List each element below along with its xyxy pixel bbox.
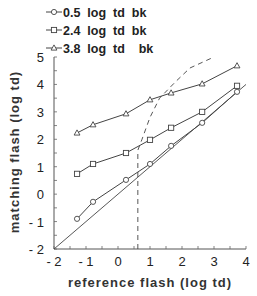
y-tick-label: 1 — [37, 160, 44, 175]
x-tick-label: 4 — [242, 254, 249, 269]
circle-marker-icon — [147, 161, 152, 166]
circle-marker-icon — [169, 143, 174, 148]
square-marker-icon — [200, 109, 205, 114]
circle-marker-icon — [200, 120, 205, 125]
series-line — [77, 66, 237, 133]
triangle-marker-icon — [123, 111, 129, 116]
axes: - 2- 101234- 2- 1012345 — [29, 50, 250, 269]
series-line — [77, 92, 237, 219]
square-marker-icon — [51, 27, 56, 32]
legend-label: 2.4 log td bk — [63, 24, 146, 38]
legend-label: 3.8 log td bk — [63, 42, 153, 56]
square-marker-icon — [123, 150, 128, 155]
square-marker-icon — [169, 125, 174, 130]
x-tick-label: - 1 — [78, 254, 93, 269]
y-tick-label: 3 — [37, 105, 44, 120]
chart: 0.5 log td bk2.4 log td bk3.8 log td bk … — [0, 0, 257, 296]
square-marker-icon — [90, 161, 95, 166]
x-axis-label: reference flash (log td) — [68, 275, 232, 290]
legend-item: 3.8 log td bk — [46, 42, 153, 56]
y-tick-label: 2 — [37, 132, 44, 147]
circle-marker-icon — [234, 89, 239, 94]
circle-marker-icon — [74, 216, 79, 221]
legend-label: 0.5 log td bk — [63, 6, 146, 20]
y-tick-label: 0 — [37, 187, 44, 202]
triangle-marker-icon — [234, 63, 240, 68]
x-tick-label: 1 — [146, 254, 153, 269]
x-tick-label: - 2 — [46, 254, 61, 269]
square-marker-icon — [147, 137, 152, 142]
x-tick-label: 0 — [114, 254, 121, 269]
plot-area — [54, 57, 246, 249]
circle-marker-icon — [123, 177, 128, 182]
circle-marker-icon — [51, 9, 56, 14]
legend-item: 2.4 log td bk — [46, 24, 146, 38]
x-tick-label: 3 — [210, 254, 217, 269]
y-axis-label: matching flash (log td) — [7, 71, 22, 233]
y-tick-label: - 1 — [29, 215, 44, 230]
y-tick-label: 4 — [37, 77, 44, 92]
square-marker-icon — [74, 171, 79, 176]
legend-item: 0.5 log td bk — [46, 6, 146, 20]
y-tick-label: 5 — [37, 50, 44, 65]
x-tick-label: 2 — [178, 254, 185, 269]
legend: 0.5 log td bk2.4 log td bk3.8 log td bk — [46, 6, 153, 56]
square-marker-icon — [234, 83, 239, 88]
y-tick-label: - 2 — [29, 242, 44, 257]
circle-marker-icon — [90, 199, 95, 204]
